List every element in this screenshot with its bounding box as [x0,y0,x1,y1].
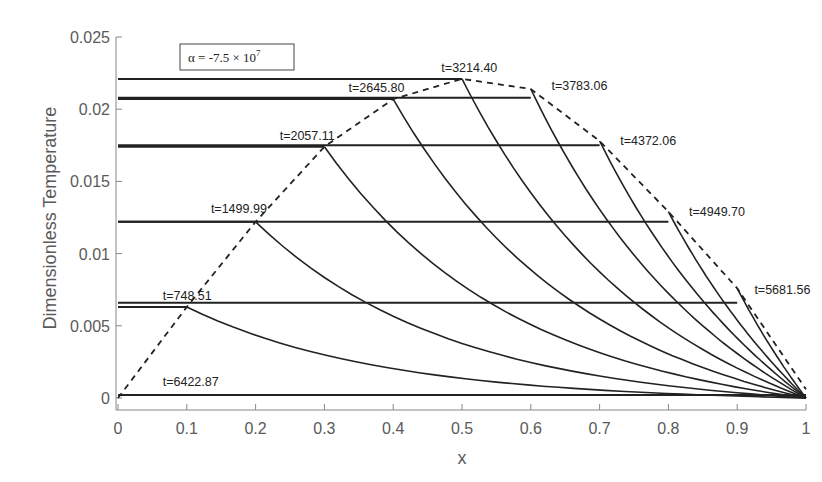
y-tick-label: 0.015 [70,173,110,190]
curve-label: t=5681.56 [754,283,810,297]
x-tick-label: 0.5 [451,420,473,437]
x-tick-label: 0 [114,420,123,437]
curve-label: t=3783.06 [551,79,607,93]
x-tick-label: 0.2 [244,420,266,437]
curve-label: t=1499.99 [211,202,267,216]
annotation-box: α = -7.5 × 107 [180,44,294,70]
x-tick-label: 0.8 [657,420,679,437]
y-tick-label: 0.01 [79,246,110,263]
curves [118,79,806,398]
annotation-text: α = -7.5 × 107 [188,48,261,65]
x-tick-label: 1 [802,420,811,437]
y-tick-label: 0.005 [70,318,110,335]
plot-area: 00.10.20.30.40.50.60.70.80.9100.0050.010… [0,0,822,482]
x-axis-title: x [458,448,467,468]
curve-label: t=748.51 [163,289,212,303]
y-tick-label: 0 [101,390,110,407]
x-tick-label: 0.3 [313,420,335,437]
y-axis-title: Dimensionless Temperature [40,107,60,330]
x-tick-label: 0.7 [588,420,610,437]
decay-curve [737,288,806,398]
x-tick-label: 0.9 [726,420,748,437]
curve-label: t=6422.87 [163,375,219,389]
curve-label: t=2645.80 [348,81,404,95]
decay-curve [256,222,806,398]
curve-label: t=3214.40 [441,61,497,75]
decay-curve [187,307,806,398]
chart-container: 00.10.20.30.40.50.60.70.80.9100.0050.010… [0,0,822,482]
x-tick-label: 0.4 [382,420,404,437]
x-tick-label: 0.1 [176,420,198,437]
x-tick-label: 0.6 [520,420,542,437]
decay-curve [462,79,806,398]
curve-label: t=4372.06 [620,134,676,148]
decay-curve [324,147,806,398]
curve-label: t=2057.11 [280,129,335,143]
curve-label: t=4949.70 [689,205,745,219]
y-tick-label: 0.025 [70,29,110,46]
y-tick-label: 0.02 [79,101,110,118]
